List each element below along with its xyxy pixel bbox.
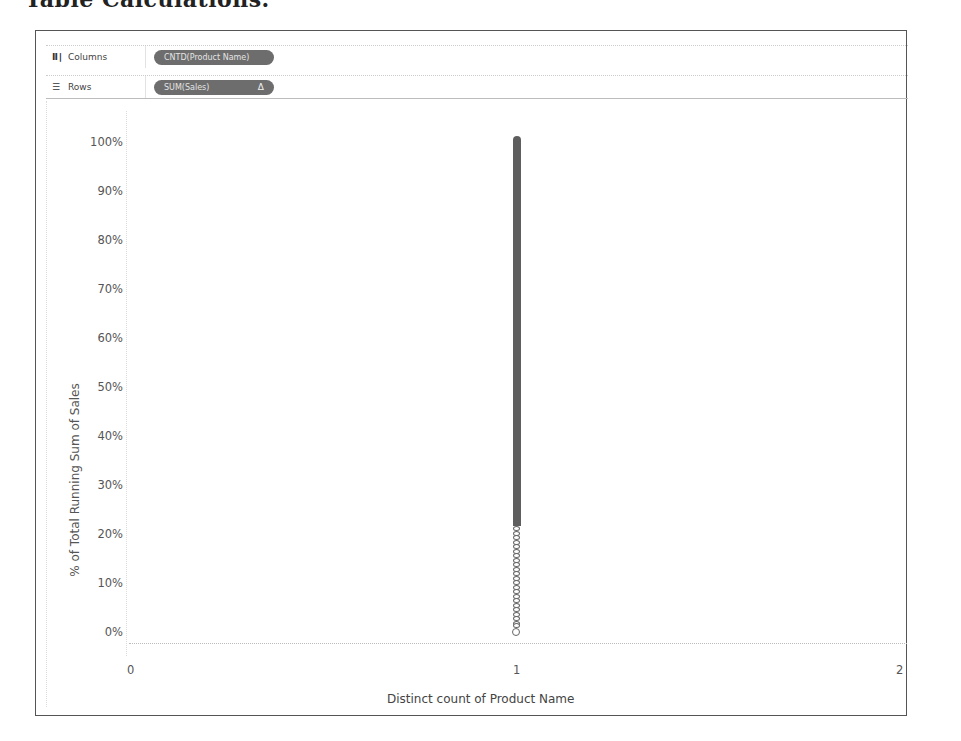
x-tick: 2 xyxy=(896,663,903,677)
rows-shelf-label: ☰ Rows xyxy=(46,76,146,98)
y-axis-line xyxy=(126,111,128,656)
columns-label: Columns xyxy=(68,52,107,62)
rows-label: Rows xyxy=(68,82,91,92)
rows-shelf[interactable]: ☰ Rows SUM(Sales) Δ xyxy=(46,75,908,99)
pill-label: CNTD(Product Name) xyxy=(164,53,249,62)
columns-icon: Ⅱ∣ xyxy=(52,52,62,62)
table-calc-delta-icon: Δ xyxy=(258,82,264,92)
columns-shelf-label: Ⅱ∣ Columns xyxy=(46,46,146,68)
y-tick: 60% xyxy=(53,331,123,345)
y-tick: 20% xyxy=(53,527,123,541)
x-tick: 0 xyxy=(127,663,134,677)
page-heading-fragment: Table Calculations. xyxy=(25,0,270,12)
x-tick: 1 xyxy=(513,663,520,677)
y-tick: 10% xyxy=(53,576,123,590)
pill-label: SUM(Sales) xyxy=(164,83,209,92)
y-tick: 0% xyxy=(53,625,123,639)
chart-area[interactable]: % of Total Running Sum of Sales 100% 90%… xyxy=(46,101,909,707)
y-tick: 90% xyxy=(53,184,123,198)
y-tick: 100% xyxy=(53,135,123,149)
sum-sales-pill[interactable]: SUM(Sales) Δ xyxy=(154,80,274,95)
y-tick: 70% xyxy=(53,282,123,296)
dense-marks-column[interactable] xyxy=(513,136,521,526)
columns-shelf[interactable]: Ⅱ∣ Columns CNTD(Product Name) xyxy=(46,45,908,68)
x-axis-line xyxy=(129,643,907,645)
cntd-product-name-pill[interactable]: CNTD(Product Name) xyxy=(154,50,274,65)
data-point-mark[interactable] xyxy=(512,628,520,636)
y-tick: 50% xyxy=(53,380,123,394)
y-tick: 30% xyxy=(53,478,123,492)
y-tick: 80% xyxy=(53,233,123,247)
tableau-worksheet: Ⅱ∣ Columns CNTD(Product Name) ☰ Rows SUM… xyxy=(35,30,907,716)
rows-icon: ☰ xyxy=(52,82,62,92)
y-tick: 40% xyxy=(53,429,123,443)
x-axis-title: Distinct count of Product Name xyxy=(387,692,574,706)
